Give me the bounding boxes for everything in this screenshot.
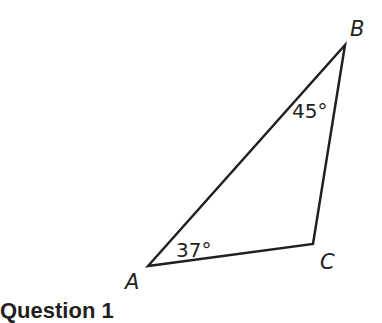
angle-label-a: 37° — [176, 238, 211, 262]
vertex-label-a: A — [123, 270, 139, 294]
angle-label-b: 45° — [292, 99, 327, 123]
triangle-abc — [148, 45, 345, 266]
section-heading: Question 1 — [0, 300, 114, 322]
vertex-label-c: C — [320, 250, 335, 274]
vertex-label-b: B — [350, 17, 364, 41]
